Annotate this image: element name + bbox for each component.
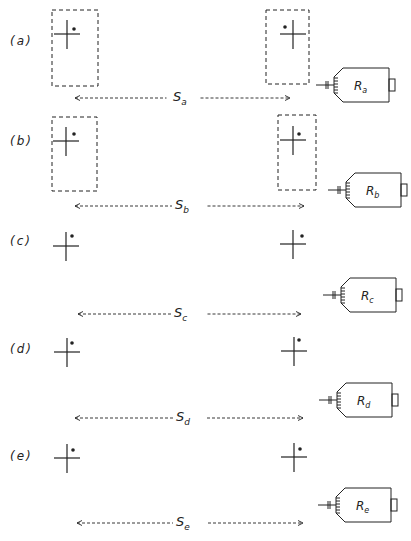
point-dot-right-d-icon [297, 338, 301, 342]
crosshair-left-e-icon [54, 444, 80, 473]
point-dot-left-b-icon [72, 132, 76, 136]
receiver-label-b: Rb [366, 184, 379, 200]
point-dot-left-c-icon [70, 234, 74, 238]
separation-label-d: Sd [173, 409, 193, 427]
crosshair-right-b-icon [280, 126, 306, 155]
receiver-label-c: Rc [361, 289, 374, 305]
point-dot-right-e-icon [298, 447, 302, 451]
crosshair-left-b-icon [53, 127, 79, 156]
crosshair-right-a-icon [280, 20, 306, 49]
panel-label-a: (a) [10, 34, 33, 48]
source-frame-right-b [278, 115, 316, 190]
point-dot-left-a-icon [72, 27, 76, 31]
source-frame-right-a [266, 10, 309, 84]
receiver-label-e: Re [356, 499, 369, 515]
point-dot-left-d-icon [70, 341, 74, 345]
separation-label-c: Sc [171, 305, 190, 323]
panel-label-b: (b) [10, 134, 33, 148]
separation-label-e: Se [173, 514, 193, 532]
panel-label-d: (d) [10, 342, 33, 356]
panel-label-c: (c) [10, 234, 32, 248]
point-dot-left-e-icon [71, 448, 75, 452]
crosshair-left-c-icon [53, 232, 79, 261]
panel-label-e: (e) [10, 449, 33, 463]
source-frame-left-a [52, 10, 98, 86]
diagram-canvas [0, 0, 411, 541]
source-frame-left-b [52, 117, 97, 191]
receiver-label-a: Ra [354, 79, 367, 95]
separation-label-b: Sb [172, 197, 192, 215]
point-dot-right-a-icon [283, 25, 287, 29]
receiver-label-d: Rd [357, 394, 370, 410]
point-dot-right-b-icon [297, 132, 301, 136]
separation-label-a: Sa [170, 89, 190, 107]
crosshair-right-d-icon [281, 337, 307, 366]
crosshair-left-a-icon [54, 20, 80, 49]
point-dot-right-c-icon [300, 234, 304, 238]
crosshair-left-d-icon [54, 338, 80, 367]
crosshair-right-e-icon [281, 443, 307, 472]
